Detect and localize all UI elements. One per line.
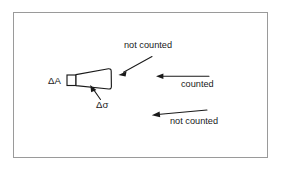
delta-sigma-label: Δσ [96, 99, 108, 110]
figure-root: not counted counted not counted Δσ ΔA [0, 0, 282, 173]
not-counted-bottom-arrow-shaft [158, 110, 208, 115]
delta-a-label: ΔA [48, 75, 61, 86]
annotation-not-counted-bottom: not counted [152, 110, 218, 126]
not-counted-top-arrow-head [118, 71, 126, 76]
not-counted-top-arrow-shaft [124, 57, 153, 73]
diagram-canvas: not counted counted not counted Δσ ΔA [0, 0, 282, 173]
not-counted-top-label: not counted [124, 40, 172, 50]
counted-label: counted [181, 79, 214, 89]
not-counted-bottom-label: not counted [170, 116, 218, 126]
not-counted-bottom-arrow-head [152, 112, 160, 118]
counted-arrow-head [156, 73, 163, 79]
annotation-not-counted-top: not counted [118, 40, 172, 77]
annotation-counted: counted [156, 73, 214, 89]
solid-angle-cone [76, 69, 111, 89]
area-element-rect [67, 75, 76, 86]
delta-sigma-arrow-shaft [94, 90, 101, 100]
